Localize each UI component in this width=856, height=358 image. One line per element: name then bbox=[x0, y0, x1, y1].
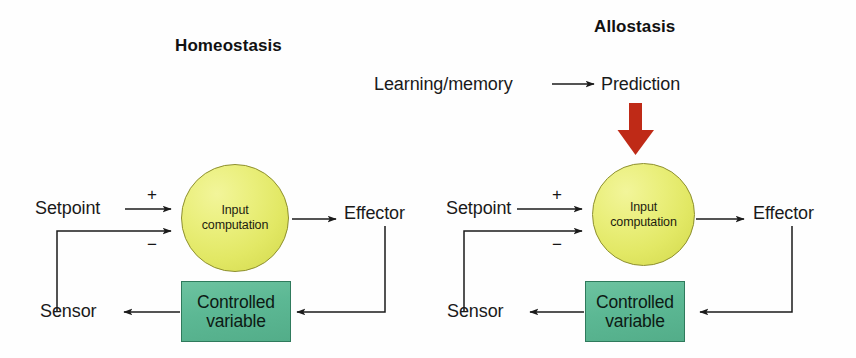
sign-negative-left: − bbox=[147, 236, 157, 253]
circle-text-line1: Input bbox=[221, 203, 248, 218]
connector-edges bbox=[0, 0, 856, 358]
node-input-computation-left: Input computation bbox=[181, 164, 289, 272]
label-prediction: Prediction bbox=[601, 74, 680, 95]
box-text-line1: Controlled bbox=[197, 293, 275, 312]
label-setpoint-left: Setpoint bbox=[35, 198, 100, 219]
label-effector-right: Effector bbox=[753, 203, 814, 224]
prediction-red-arrow-icon bbox=[618, 103, 655, 155]
node-controlled-variable-left: Controlled variable bbox=[181, 281, 291, 342]
box-text-line2: variable bbox=[206, 312, 266, 331]
edge-effector-to-controlled-left bbox=[297, 226, 385, 312]
box-text-line2: variable bbox=[605, 312, 665, 331]
sign-negative-right: − bbox=[552, 236, 562, 253]
circle-text-line2: computation bbox=[610, 215, 676, 230]
panel-title-allostasis: Allostasis bbox=[594, 17, 675, 37]
edge-sensor-to-computation-right bbox=[464, 231, 582, 311]
label-learning-memory: Learning/memory bbox=[374, 74, 513, 95]
box-text-line1: Controlled bbox=[596, 293, 674, 312]
label-sensor-right: Sensor bbox=[447, 301, 503, 322]
node-controlled-variable-right: Controlled variable bbox=[585, 281, 685, 342]
label-effector-left: Effector bbox=[344, 203, 405, 224]
node-input-computation-right: Input computation bbox=[592, 163, 695, 266]
sign-positive-right: + bbox=[552, 186, 562, 203]
label-setpoint-right: Setpoint bbox=[446, 198, 511, 219]
sign-positive-left: + bbox=[147, 186, 157, 203]
figure-root: Homeostasis Setpoint + − Sensor Effector… bbox=[0, 0, 856, 358]
label-sensor-left: Sensor bbox=[40, 301, 96, 322]
circle-text-line1: Input bbox=[630, 200, 657, 215]
panel-title-homeostasis: Homeostasis bbox=[175, 36, 282, 56]
edge-effector-to-controlled-right bbox=[700, 226, 792, 312]
circle-text-line2: computation bbox=[202, 218, 268, 233]
